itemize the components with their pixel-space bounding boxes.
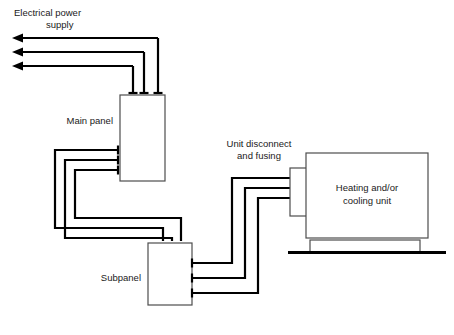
supply-arrow-2 (12, 48, 144, 57)
main-panel-label: Main panel (67, 115, 113, 126)
electrical-power-supply-arrows (12, 34, 158, 71)
service-entrance-conductors (129, 38, 163, 93)
subpanel-label: Subpanel (101, 272, 141, 283)
unit-disconnect-label-line1: Unit disconnect (227, 138, 292, 149)
wiring-diagram-canvas: Main panel Subpanel Unit disconnect (0, 0, 454, 335)
supply-arrow-1 (12, 34, 158, 43)
unit-disconnect-label-line2: and fusing (237, 150, 281, 161)
main-panel-enclosure[interactable] (120, 95, 165, 181)
power-supply-label-line1: Electrical power (14, 7, 81, 18)
equipment-pad (310, 240, 420, 252)
subpanel-to-disconnect-conductors (192, 178, 290, 298)
power-supply-label-line2: supply (46, 19, 74, 30)
electrical-wiring-diagram: Main panel Subpanel Unit disconnect (0, 0, 454, 335)
heating-cooling-unit-label-line2: cooling unit (343, 195, 391, 206)
heating-cooling-unit-label-line1: Heating and/or (336, 182, 398, 193)
supply-arrow-3 (12, 62, 133, 71)
subpanel-enclosure[interactable] (148, 243, 192, 305)
